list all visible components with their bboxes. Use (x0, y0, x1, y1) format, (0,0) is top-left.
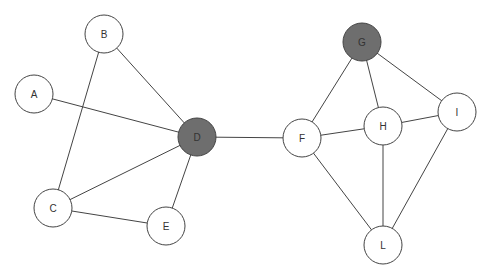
node-c[interactable]: C (34, 189, 72, 227)
node-b[interactable]: B (85, 15, 123, 53)
edge-c-d (53, 137, 197, 208)
node-e[interactable]: E (147, 207, 185, 245)
node-l[interactable]: L (364, 226, 402, 264)
node-label: C (49, 203, 56, 214)
edge-b-c (53, 34, 104, 208)
edge-a-d (34, 94, 197, 137)
node-label: A (31, 89, 38, 100)
node-label: D (193, 132, 200, 143)
nodes-layer: ABCDEFGHIL (15, 15, 476, 264)
edge-b-d (104, 34, 197, 137)
node-label: G (358, 37, 366, 48)
edge-f-l (302, 138, 383, 245)
node-d[interactable]: D (178, 118, 216, 156)
node-label: F (299, 133, 305, 144)
node-label: E (163, 221, 170, 232)
node-i[interactable]: I (438, 93, 476, 131)
node-label: L (380, 240, 386, 251)
node-a[interactable]: A (15, 75, 53, 113)
node-h[interactable]: H (364, 107, 402, 145)
node-f[interactable]: F (283, 119, 321, 157)
node-label: H (379, 121, 386, 132)
graph-diagram: ABCDEFGHIL (0, 0, 491, 278)
node-label: I (456, 107, 459, 118)
node-g[interactable]: G (343, 23, 381, 61)
node-label: B (101, 29, 108, 40)
